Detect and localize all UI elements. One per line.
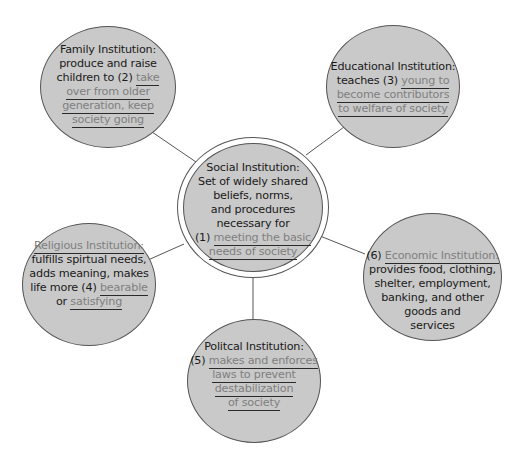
connector-economic bbox=[320, 236, 365, 254]
family-title: Family Institution: bbox=[60, 43, 156, 57]
family-line: children to (2) take bbox=[57, 71, 160, 85]
religious-line: fulfills spirtual needs, bbox=[32, 253, 147, 267]
religious-institution-node: Religious Institution: fulfills spirtual… bbox=[22, 223, 156, 346]
educational-title: Educational Institution: bbox=[331, 60, 456, 74]
center-title: Social Institution: bbox=[206, 161, 299, 175]
connector-religious bbox=[148, 244, 184, 260]
family-answer: generation, keep bbox=[62, 99, 154, 114]
political-line: (5) makes and enforces bbox=[190, 354, 318, 368]
economic-institution-node: (6) Economic Institution: provides food,… bbox=[363, 213, 502, 341]
educational-answer: young to bbox=[401, 74, 449, 89]
economic-line: goods and bbox=[404, 305, 461, 319]
family-answer: take bbox=[136, 71, 159, 86]
center-number: (1) bbox=[195, 231, 210, 244]
political-answer: of society bbox=[228, 396, 280, 411]
family-institution-node: Family Institution: produce and raise ch… bbox=[40, 26, 176, 148]
economic-number: (6) bbox=[366, 249, 381, 262]
family-answer: society going bbox=[72, 113, 144, 128]
center-line: and procedures bbox=[211, 203, 295, 217]
economic-line: services bbox=[410, 319, 454, 333]
center-line: Set of widely shared bbox=[198, 175, 308, 189]
educational-answer: become contributors bbox=[337, 88, 450, 103]
center-answer: meeting the basic bbox=[214, 231, 311, 246]
educational-line: teaches (3) young to bbox=[337, 74, 450, 88]
religious-title: Religious Institution: bbox=[34, 239, 144, 254]
center-line: necessary for bbox=[216, 217, 289, 231]
center-line: beliefs, norms, bbox=[213, 189, 293, 203]
connector-family bbox=[152, 132, 196, 162]
economic-title: Economic Institution: bbox=[385, 249, 499, 264]
economic-line: provides food, clothing, bbox=[369, 263, 496, 277]
religious-line: adds meaning, makes bbox=[29, 267, 148, 281]
religious-number: life more (4) bbox=[30, 281, 96, 294]
family-line: produce and raise bbox=[59, 57, 157, 71]
political-number: (5) bbox=[190, 354, 205, 367]
educational-institution-node: Educational Institution: teaches (3) you… bbox=[326, 25, 460, 148]
religious-answer: bearable bbox=[100, 281, 148, 296]
economic-line: shelter, employment, bbox=[374, 277, 490, 291]
social-institution-node: Social Institution: Set of widely shared… bbox=[183, 143, 323, 272]
family-answer: over from older bbox=[66, 85, 150, 100]
religious-line: or satisfying bbox=[56, 295, 122, 309]
political-institution-node: Politcal Institution: (5) makes and enfo… bbox=[187, 319, 321, 443]
center-answer: needs of society bbox=[209, 245, 297, 260]
political-answer: laws to prevent bbox=[212, 368, 296, 383]
political-answer: makes and enforces bbox=[209, 354, 318, 369]
economic-line: banking, and other bbox=[381, 291, 484, 305]
educational-answer: to welfare of society bbox=[338, 102, 447, 117]
economic-title-line: (6) Economic Institution: bbox=[366, 249, 499, 263]
connector-educational bbox=[306, 127, 344, 155]
center-line: (1) meeting the basic bbox=[195, 231, 311, 245]
family-number: children to (2) bbox=[57, 71, 133, 84]
religious-answer: satisfying bbox=[70, 295, 122, 310]
political-answer: destabilization bbox=[215, 382, 294, 397]
religious-line: life more (4) bearable bbox=[30, 281, 148, 295]
religious-or: or bbox=[56, 295, 67, 308]
educational-number: teaches (3) bbox=[337, 74, 398, 87]
political-title: Politcal Institution: bbox=[204, 340, 304, 354]
